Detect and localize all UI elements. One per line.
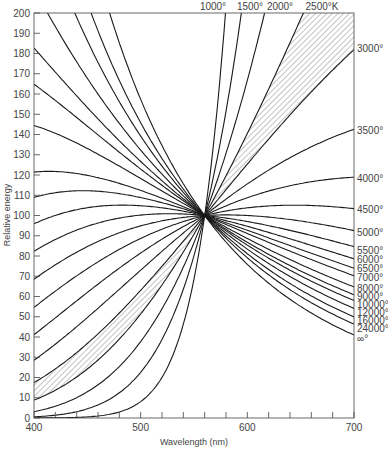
y-tick-label: 90	[19, 230, 31, 241]
top-label: 1000°	[200, 1, 226, 12]
y-axis: 0102030405060708090100110120130140150160…	[13, 8, 40, 424]
x-axis-title: Wavelength (nm)	[160, 437, 228, 447]
top-label: 2000°	[267, 1, 293, 12]
blackbody-chart: 0102030405060708090100110120130140150160…	[0, 0, 388, 451]
top-label: 1500°	[237, 1, 263, 12]
right-label: 3000°	[357, 43, 383, 54]
right-label: ∞°	[357, 333, 368, 344]
y-tick-label: 70	[19, 271, 31, 282]
right-label: 4000°	[357, 173, 383, 184]
y-tick-label: 140	[13, 129, 30, 140]
y-tick-label: 20	[19, 372, 31, 383]
y-tick-label: 30	[19, 352, 31, 363]
y-tick-label: 130	[13, 149, 30, 160]
top-temperature-labels: 1000°1500°2000°2500°K	[200, 1, 339, 12]
y-tick-label: 40	[19, 332, 31, 343]
x-axis: 400500600700	[26, 412, 363, 433]
right-temperature-labels: 3000°3500°4000°4500°5000°5500°6000°6500°…	[357, 43, 388, 344]
y-tick-label: 100	[13, 210, 30, 221]
x-tick-label: 400	[26, 422, 43, 433]
top-label: 2500°K	[306, 1, 339, 12]
y-tick-label: 80	[19, 251, 31, 262]
right-label: 4500°	[357, 204, 383, 215]
right-label: 3500°	[357, 125, 383, 136]
y-tick-label: 200	[13, 8, 30, 19]
y-tick-label: 60	[19, 291, 31, 302]
right-label: 7000°	[357, 272, 383, 283]
y-tick-label: 150	[13, 109, 30, 120]
y-tick-label: 180	[13, 48, 30, 59]
y-axis-title: Relative energy	[2, 183, 12, 246]
y-tick-label: 120	[13, 170, 30, 181]
x-tick-label: 500	[132, 422, 149, 433]
curve-9000K	[34, 84, 354, 295]
y-tick-label: 160	[13, 89, 30, 100]
x-tick-label: 700	[346, 422, 363, 433]
y-tick-label: 190	[13, 28, 30, 39]
x-tick-label: 600	[239, 422, 256, 433]
y-tick-label: 110	[14, 190, 30, 201]
right-label: 5000°	[357, 227, 383, 238]
y-tick-label: 50	[19, 311, 31, 322]
y-tick-label: 170	[13, 68, 30, 79]
curve-3500K	[34, 129, 354, 360]
y-tick-label: 10	[19, 392, 31, 403]
